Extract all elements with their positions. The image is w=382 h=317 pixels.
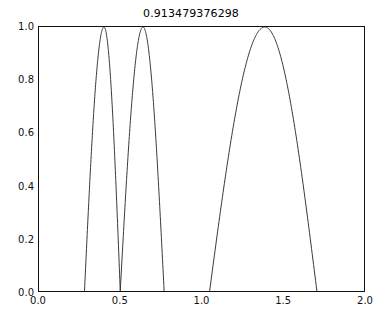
ytick-label-4: 0.8 xyxy=(0,74,34,85)
ytick-label-1: 0.2 xyxy=(0,233,34,244)
plot-title: 0.913479376298 xyxy=(0,7,382,20)
xtick-label-3: 1.5 xyxy=(275,295,291,306)
xtick-label-0: 0.0 xyxy=(30,295,46,306)
ytick-label-2: 0.4 xyxy=(0,180,34,191)
xtick-label-4: 2.0 xyxy=(357,295,373,306)
curve-plot xyxy=(39,27,364,291)
data-series-curve xyxy=(85,27,317,291)
ytick-label-0: 0.0 xyxy=(0,287,34,298)
ytick-label-5: 1.0 xyxy=(0,21,34,32)
plot-axes-frame xyxy=(38,26,365,292)
ytick-label-3: 0.6 xyxy=(0,127,34,138)
xtick-label-1: 0.5 xyxy=(112,295,128,306)
figure-canvas: 0.913479376298 0.0 0.2 0.4 0.6 0.8 1.0 0… xyxy=(0,0,382,317)
xtick-label-2: 1.0 xyxy=(194,295,210,306)
